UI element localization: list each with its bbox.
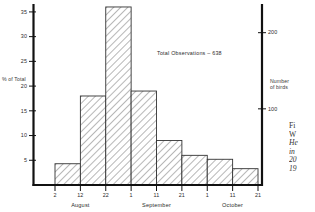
x-tick-label: 1	[197, 192, 217, 198]
figure-caption: FiWHein2019	[289, 122, 315, 174]
histogram-bar	[233, 169, 258, 185]
x-tick-label: 11	[147, 192, 167, 198]
bar-series	[55, 7, 258, 185]
histogram-bar	[131, 91, 156, 185]
y-tick-label: 25	[8, 58, 27, 64]
figure-caption-line: W	[289, 131, 315, 140]
y-tick-label-right: 200	[268, 29, 288, 35]
y-axis-label-right: Number of birds	[270, 78, 310, 90]
y-tick-label: 35	[8, 9, 27, 15]
x-tick-label: 1	[121, 192, 141, 198]
x-axis-month-label: August	[55, 202, 105, 208]
figure-caption-line: 19	[289, 165, 315, 174]
histogram-bar	[207, 159, 232, 185]
histogram-bar	[106, 7, 131, 185]
histogram-figure: % of Total Number of birds Total Observa…	[0, 0, 315, 212]
histogram-bar	[55, 164, 80, 185]
figure-caption-line: 20	[289, 156, 315, 165]
x-tick-label: 2	[45, 192, 65, 198]
histogram-bar	[157, 140, 182, 185]
x-tick-label: 21	[172, 192, 192, 198]
y-tick-label: 15	[8, 108, 27, 114]
y-axis-label-left: % of Total	[2, 76, 28, 82]
histogram-bar	[80, 96, 105, 185]
x-axis-month-label: October	[208, 202, 258, 208]
x-tick-label: 21	[248, 192, 268, 198]
x-tick-label: 11	[223, 192, 243, 198]
histogram-bar	[182, 155, 207, 185]
total-observations-annotation: Total Observations – 638	[157, 50, 222, 56]
y-tick-label-right: 100	[268, 106, 288, 112]
figure-caption-line: in	[289, 148, 315, 157]
figure-caption-line: Fi	[289, 122, 315, 131]
x-tick-label: 12	[70, 192, 90, 198]
y-tick-label: 5	[8, 157, 27, 163]
y-tick-label: 30	[8, 33, 27, 39]
figure-caption-line: He	[289, 139, 315, 148]
x-tick-label: 22	[96, 192, 116, 198]
y-tick-label: 10	[8, 132, 27, 138]
y-tick-label: 20	[8, 83, 27, 89]
x-axis-month-label: September	[132, 202, 182, 208]
